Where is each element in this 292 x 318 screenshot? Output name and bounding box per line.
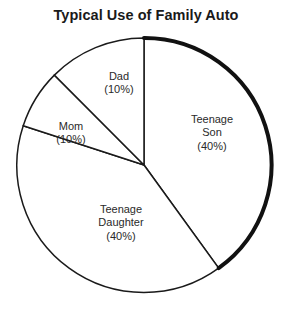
pie-label-teenage-daughter: Teenage Daughter (40%) <box>70 203 172 243</box>
pie-label-mom: Mom (10%) <box>36 120 106 147</box>
pie-label-mom-name: Mom <box>36 120 106 133</box>
pie-label-teenage-son-name-line1: Teenage <box>169 113 255 126</box>
pie-label-dad-name: Dad <box>84 70 154 83</box>
pie-label-teenage-son-name-line2: Son <box>169 126 255 139</box>
pie-label-teenage-son-value: (40%) <box>169 140 255 153</box>
pie-label-dad: Dad (10%) <box>84 70 154 97</box>
pie-label-teenage-son: Teenage Son (40%) <box>169 113 255 153</box>
pie-label-teenage-daughter-name-line1: Teenage <box>70 203 172 216</box>
pie-label-teenage-daughter-name-line2: Daughter <box>70 216 172 229</box>
pie-label-dad-value: (10%) <box>84 83 154 96</box>
pie-chart-graphic <box>0 0 292 318</box>
pie-chart-figure: Typical Use of Family Auto Dad (10%) Mom… <box>0 0 292 318</box>
pie-label-teenage-daughter-value: (40%) <box>70 230 172 243</box>
pie-label-mom-value: (10%) <box>36 133 106 146</box>
